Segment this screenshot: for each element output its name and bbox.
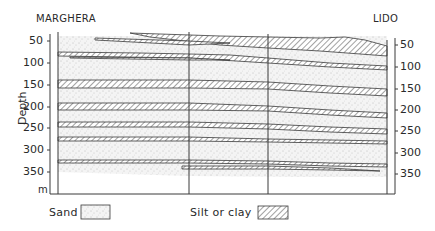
- left-tick: 350: [23, 165, 44, 178]
- right-tick: 350: [400, 167, 421, 180]
- left-tick: 200: [23, 100, 44, 113]
- legend-sand-label: Sand: [49, 206, 78, 219]
- depth-unit-label: m: [38, 184, 48, 195]
- cross-section-diagram: Depth: [0, 0, 435, 231]
- right-tick: 100: [400, 60, 421, 73]
- right-tick: 50: [400, 38, 414, 51]
- left-tick: 150: [23, 78, 44, 91]
- left-tick: 50: [29, 34, 43, 47]
- left-tick: 250: [23, 121, 44, 134]
- right-tick: 300: [400, 146, 421, 159]
- legend-silt-label: Silt or clay: [190, 206, 252, 219]
- location-label-left: MARGHERA: [36, 13, 96, 24]
- legend-sand-swatch: [81, 205, 110, 219]
- right-tick: 200: [400, 103, 421, 116]
- left-tick: 300: [23, 143, 44, 156]
- left-depth-axis: [47, 34, 58, 194]
- left-tick: 100: [23, 56, 44, 69]
- right-depth-axis: [387, 38, 398, 194]
- legend-silt-swatch: [258, 206, 288, 219]
- location-label-right: LIDO: [373, 13, 398, 24]
- right-tick: 150: [400, 82, 421, 95]
- right-tick: 250: [400, 124, 421, 137]
